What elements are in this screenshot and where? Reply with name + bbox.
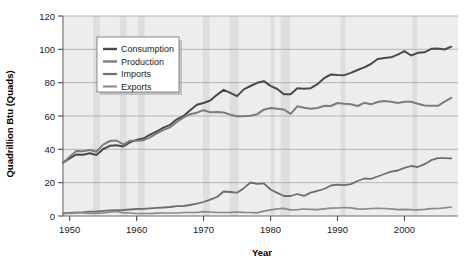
y-tick-label: 20 [44,177,55,188]
x-tick-label: 1970 [193,224,214,235]
y-tick-labels: 020406080100120 [39,11,55,222]
chart-figure: 020406080100120 195019601970198019902000… [0,0,472,263]
x-tick-label: 2000 [394,224,415,235]
legend-label-consumption: Consumption [121,44,174,54]
x-tick-label: 1990 [327,224,348,235]
legend-label-exports: Exports [121,82,152,92]
y-tick-label: 100 [39,44,55,55]
y-axis-title: Quadrillion Btu (Quads) [4,70,15,177]
y-tick-label: 40 [44,144,55,155]
y-tick-label: 60 [44,111,55,122]
legend-label-imports: Imports [121,69,152,79]
y-tick-label: 0 [50,211,55,222]
x-tick-label: 1980 [260,224,281,235]
x-tick-label: 1950 [59,224,80,235]
x-tick-labels: 195019601970198019902000 [59,224,415,235]
y-tick-label: 80 [44,77,55,88]
energy-line-chart: 020406080100120 195019601970198019902000… [0,0,472,263]
y-tick-label: 120 [39,11,55,22]
x-axis-title: Year [252,247,272,258]
legend-label-production: Production [121,57,164,67]
x-tick-label: 1960 [126,224,147,235]
chart-legend: ConsumptionProductionImportsExports [97,37,182,95]
